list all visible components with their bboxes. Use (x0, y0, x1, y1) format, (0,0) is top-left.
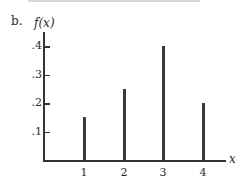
y-tick-label: .1 (24, 125, 42, 138)
y-tick (44, 132, 50, 134)
y-axis (43, 32, 45, 162)
x-axis (43, 160, 226, 162)
probability-bar (123, 89, 126, 160)
y-tick-label: .3 (24, 68, 42, 81)
x-tick-label: 2 (119, 166, 129, 179)
y-tick (44, 46, 50, 48)
x-axis-label: x (229, 152, 236, 166)
probability-bar (83, 117, 86, 160)
probability-bar (162, 46, 165, 160)
x-tick-label: 4 (198, 166, 208, 179)
y-tick-label: .4 (24, 39, 42, 52)
probability-bar (202, 103, 205, 160)
x-tick-label: 3 (158, 166, 168, 179)
x-tick-label: 1 (79, 166, 89, 179)
y-axis-label: f(x) (34, 16, 55, 30)
top-rule (28, 0, 200, 2)
y-tick-label: .2 (24, 96, 42, 109)
y-tick (44, 103, 50, 105)
part-label: b. (11, 14, 23, 28)
y-tick (44, 75, 50, 77)
